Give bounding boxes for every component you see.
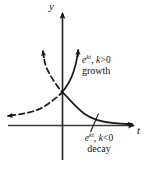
- decay-word-label: decay: [62, 144, 136, 155]
- dashed-curve-left-arrow-icon: [8, 115, 15, 116]
- t-axis-label: t: [137, 125, 140, 137]
- growth-curve-up-arrow-icon: [78, 50, 79, 58]
- decay-curve: [62, 92, 131, 124]
- growth-word-label: growth: [82, 66, 111, 77]
- growth-curve: [62, 54, 77, 92]
- exponential-growth-decay-figure: y t ekt, k>0 growth ekt, k<0 decay: [0, 0, 154, 170]
- dashed-mirror-curve: [10, 55, 62, 116]
- growth-curve-label: ekt, k>0 growth: [82, 56, 111, 76]
- y-axis-label: y: [49, 1, 54, 13]
- growth-value: 0: [106, 55, 111, 65]
- decay-value: 0: [109, 133, 114, 143]
- decay-label-leader-line: [91, 114, 99, 133]
- dashed-curve-up-arrow-icon: [43, 51, 44, 59]
- decay-curve-label: ekt, k<0 decay: [62, 134, 136, 154]
